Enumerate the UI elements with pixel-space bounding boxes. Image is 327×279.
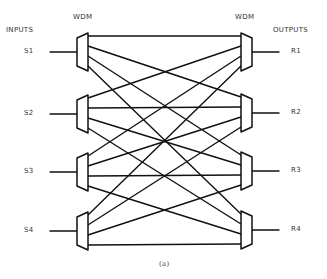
wdm-mux-icon-r3 xyxy=(241,152,252,190)
wdm-interconnect-diagram: INPUTS WDM WDM OUTPUTS S1 S2 S3 S4 R1 R2… xyxy=(0,0,327,279)
wdm-demux-icon-s3 xyxy=(77,153,88,191)
fiber-link-s4-r4 xyxy=(88,244,241,245)
fiber-link-s2-r2 xyxy=(88,107,241,108)
wdm-demux-icon-s1 xyxy=(77,33,88,71)
wdm-mux-icon-r2 xyxy=(241,94,252,132)
wdm-demux-icon-s2 xyxy=(77,95,88,133)
wdm-mux-icon-r1 xyxy=(241,33,252,71)
wdm-demux-icon-s4 xyxy=(77,212,88,250)
wdm-mux-icon-r4 xyxy=(241,211,252,249)
fiber-mesh-svg xyxy=(0,0,327,279)
